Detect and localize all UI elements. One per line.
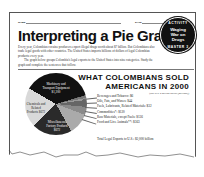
name-label: NAME: [18, 21, 25, 24]
legend-item: Food and Live Animals**: $363: [97, 120, 152, 125]
activity-badge: ACTIVITY Waging War on Drugs MASTER 3: [160, 17, 196, 53]
leader-line: [85, 111, 97, 114]
torn-edge: [0, 135, 204, 177]
pie-label-chemicals: Chemicals and Related Products $672: [26, 103, 46, 114]
intro-paragraph-2: The graph below groups Colombia's legal …: [18, 58, 158, 67]
leader-line: [83, 98, 97, 100]
name-field[interactable]: NAME: [18, 21, 121, 24]
chart-subtitle: (and were 4 million dollars [millions]): [149, 92, 189, 95]
intro-paragraph-1: Every year, Colombian cocaine producers …: [18, 45, 158, 58]
page-title: Interpreting a Pie Graph: [18, 28, 179, 44]
intro-text: Every year, Colombian cocaine producers …: [18, 45, 158, 67]
chart-legend: Beverages and Tobacco: $6 Oils, Fats, an…: [97, 94, 152, 125]
pie-label-machinery: Machinery and Transport Equipment $1,200: [42, 83, 70, 94]
leader-line: [82, 119, 96, 124]
chart-title: WHAT COLOMBIANS SOLD AMERICANS IN 2000: [78, 73, 189, 91]
leader-line: [84, 115, 97, 119]
leader-line: [85, 107, 97, 108]
date-label: DATE: [135, 21, 142, 24]
legend-item: Fuels, Lubricants, Related Materials: $3…: [97, 104, 152, 109]
pie-label-misc: Miscellaneous Factory Products $672: [46, 121, 68, 132]
leader-line: [84, 103, 97, 104]
divider: [18, 69, 194, 70]
